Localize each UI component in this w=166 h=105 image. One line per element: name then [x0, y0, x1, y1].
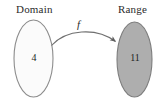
domain-element-value: 4 [26, 53, 42, 63]
mapping-arrow [52, 32, 116, 46]
function-name-label: f [77, 19, 80, 30]
range-label: Range [118, 4, 147, 15]
function-mapping-figure: Domain Range 4 11 f [0, 0, 166, 105]
range-element-value: 11 [126, 53, 144, 63]
domain-label: Domain [16, 4, 53, 15]
